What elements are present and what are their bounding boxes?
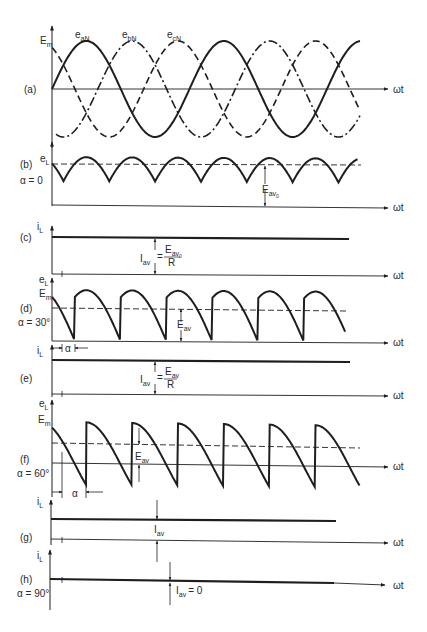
panel-e-current-line <box>52 360 350 362</box>
panel-c: iL (c) ωt Iav = Eav0 R <box>20 221 404 281</box>
panel-g-tag: (g) <box>20 532 32 543</box>
panel-d-alpha-mark: α <box>65 343 71 354</box>
panel-c-wt-label: ωt <box>393 270 404 281</box>
panel-f-el-label: eL <box>39 398 49 411</box>
panel-h-x-axis <box>334 583 385 585</box>
panel-h-tag: (h) <box>20 574 32 585</box>
panel-e-equals: = <box>157 372 163 383</box>
panel-b-eav0-label: Eav0 <box>262 184 279 199</box>
panel-b-el-label: eL <box>40 153 50 166</box>
panel-e-iav-label: Iav <box>140 374 151 387</box>
panel-f: eL Em (f) α = 60° ωt Eav α <box>17 398 404 499</box>
panel-a-wt-label: ωt <box>393 84 404 95</box>
panel-e-il-label: iL <box>37 345 43 358</box>
panel-d-el-label: eL <box>39 274 49 287</box>
panel-e-wt-label: ωt <box>393 390 404 401</box>
panel-b-x-axis <box>52 205 388 208</box>
panel-g-wt-label: ωt <box>393 537 404 548</box>
panel-d-x-axis <box>52 341 388 343</box>
panel-d: eL Em (d) α = 30° ωt Eav α <box>18 274 404 354</box>
panel-c-tag: (c) <box>20 232 32 243</box>
panel-g-current-line <box>51 519 336 521</box>
panel-f-tag: (f) <box>20 454 29 465</box>
panel-h-wt-label: ωt <box>393 580 404 591</box>
panel-h-iav-label: Iav= 0 <box>176 585 203 598</box>
panel-f-alpha: α = 60° <box>17 468 49 479</box>
panel-a-tag: (a) <box>24 84 36 95</box>
panel-e-x-axis <box>52 394 388 396</box>
panel-e-numerator: Eav <box>165 366 180 379</box>
panel-e-tag: (e) <box>20 373 32 384</box>
rectified-output-alpha-0 <box>52 157 358 182</box>
panel-g-il-label: iL <box>37 496 43 509</box>
panel-b: ωt (b) α = 0 eL Eav0 <box>20 142 404 213</box>
panel-b-wt-label: ωt <box>393 202 404 213</box>
panel-h-alpha: α = 90° <box>17 588 49 599</box>
panel-g-iav-label: Iav <box>154 524 165 537</box>
panel-d-wt-label: ωt <box>393 337 404 348</box>
panel-d-tag: (d) <box>20 303 32 314</box>
panel-f-em-label: Em <box>38 414 51 427</box>
panel-f-eav-label: Eav <box>135 451 150 464</box>
panel-e: iL (e) ωt Iav = Eav R <box>20 345 404 401</box>
panel-c-iav-label: Iav <box>140 253 151 266</box>
panel-g-x-axis <box>51 539 388 543</box>
panel-a: ωt (a) Em eaN ebN ecN <box>24 26 404 148</box>
panel-f-average-line <box>52 443 360 448</box>
panel-b-tag: (b) <box>20 159 32 170</box>
legend-ebN: ebN <box>122 29 137 42</box>
panel-d-eav-label: Eav <box>177 319 192 332</box>
panel-b-alpha: α = 0 <box>20 175 43 186</box>
panel-c-denominator: R <box>168 257 175 268</box>
panel-c-equals: = <box>157 251 163 262</box>
panel-d-alpha: α = 30° <box>18 317 50 328</box>
panel-e-denominator: R <box>167 379 174 390</box>
panel-h-il-label: iL <box>37 550 43 563</box>
rectified-output-alpha-60 <box>52 422 360 486</box>
panel-c-x-axis <box>52 274 388 276</box>
panel-h-current-line <box>50 579 334 583</box>
panel-h: iL (h) α = 90° ωt Iav= 0 <box>17 550 404 610</box>
panel-f-alpha-mark: α <box>72 488 78 499</box>
panel-c-il-label: iL <box>37 221 43 234</box>
panel-f-wt-label: ωt <box>393 461 404 472</box>
rectified-output-alpha-30 <box>52 290 345 340</box>
panel-g: iL (g) ωt Iav <box>20 496 404 562</box>
panel-f-x-axis <box>52 463 388 467</box>
panel-c-current-line <box>52 237 349 239</box>
legend-ecN: ecN <box>167 29 181 42</box>
three-phase-rectifier-waveforms: ωt (a) Em eaN ebN ecN ωt (b) α = 0 eL Ea… <box>0 0 427 632</box>
panel-d-em-label: Em <box>39 288 52 301</box>
panel-a-em-label: Em <box>40 35 53 48</box>
